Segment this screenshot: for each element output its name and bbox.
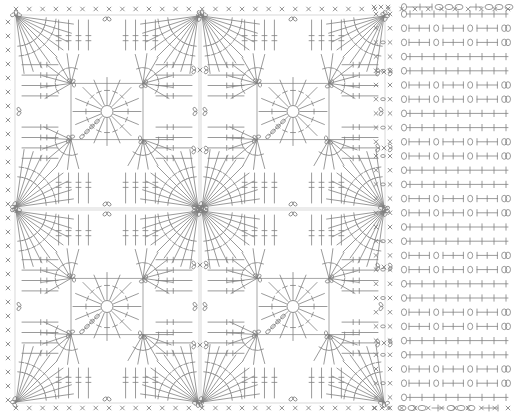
border-row	[374, 124, 508, 131]
dc-post	[296, 275, 306, 300]
dc-crossbar	[143, 68, 148, 69]
dc-crossbar	[46, 18, 47, 23]
border-top-chain	[372, 4, 513, 11]
chain-loop-symbol	[378, 302, 383, 312]
chain-loop-symbol	[16, 302, 21, 312]
dc-post	[143, 252, 158, 278]
single-crochet-symbol	[107, 7, 111, 11]
single-crochet-symbol	[6, 34, 10, 38]
chain-stitch-symbol	[506, 139, 511, 146]
double-crochet-symbol	[321, 54, 329, 83]
dc-crossbar	[138, 155, 143, 156]
chain-stitch-symbol	[506, 96, 511, 103]
double-crochet-symbol	[253, 140, 258, 170]
chain-stitch-symbol	[468, 266, 473, 273]
outer-corner-fan	[141, 10, 204, 74]
dc-crossbar	[319, 152, 323, 155]
single-crochet-symbol	[67, 7, 71, 11]
dc-crossbar	[223, 173, 227, 176]
dc-crossbar	[173, 47, 177, 50]
double-crochet-symbol	[262, 215, 267, 245]
single-crochet-symbol	[120, 406, 124, 410]
double-crochet-symbol	[22, 257, 58, 262]
round-3-outer-fans	[196, 10, 390, 213]
double-crochet-symbol	[252, 173, 257, 203]
double-crochet-symbol	[156, 156, 192, 161]
chain-stitch-symbol	[401, 252, 406, 259]
dc-post	[112, 116, 131, 135]
double-crochet-symbol	[252, 20, 257, 50]
single-crochet-symbol	[374, 254, 378, 258]
double-crochet-symbol	[22, 278, 58, 283]
dc-crossbar	[32, 39, 36, 42]
dc-crossbar	[247, 69, 251, 72]
double-crochet-symbol	[22, 83, 58, 88]
single-crochet-symbol	[81, 406, 85, 410]
double-crochet-symbol	[208, 125, 244, 130]
single-crochet-symbol	[388, 282, 392, 286]
chain-stitch-symbol	[506, 153, 511, 160]
chain-stitch-symbol	[485, 4, 493, 9]
picot-loop-symbol	[324, 78, 337, 91]
border-row	[374, 238, 508, 245]
single-crochet-symbol	[134, 7, 138, 11]
dc-crossbar	[350, 37, 353, 41]
chain-stitch-symbol	[434, 39, 439, 46]
chain-stitch-symbol	[434, 380, 439, 387]
double-crochet-symbol	[208, 340, 244, 345]
double-crochet-symbol	[22, 268, 58, 273]
double-crochet-symbol	[299, 98, 324, 108]
chain-stitch-symbol	[265, 133, 271, 139]
double-crochet-symbol	[156, 278, 192, 283]
single-crochet-symbol	[187, 406, 191, 410]
chain-stitch-symbol	[401, 181, 406, 188]
dc-crossbar	[335, 69, 339, 72]
dc-crossbar	[344, 214, 345, 219]
center-ring	[287, 106, 299, 118]
round-1-radial-dc	[259, 273, 327, 341]
chain-loop-symbol	[204, 260, 209, 269]
single-crochet-symbol	[347, 406, 351, 410]
dc-crossbar	[190, 250, 195, 251]
dc-crossbar	[204, 46, 209, 47]
double-crochet-symbol	[291, 119, 296, 146]
chain-stitch-symbol	[401, 394, 406, 401]
single-crochet-symbol	[200, 406, 204, 410]
chain-stitch-symbol	[401, 238, 406, 245]
center-ring	[101, 106, 113, 118]
dc-crossbar	[329, 263, 334, 264]
outer-corner-fan	[10, 205, 74, 268]
dc-crossbar	[223, 242, 227, 245]
double-crochet-symbol	[321, 249, 329, 278]
double-crochet-symbol	[114, 304, 141, 309]
chain-stitch-symbol	[468, 82, 473, 89]
double-crochet-symbol	[143, 215, 148, 245]
chain-stitch-symbol	[401, 351, 406, 358]
double-crochet-symbol	[123, 368, 128, 398]
chain-loop-symbol	[202, 302, 207, 312]
single-crochet-symbol	[388, 126, 392, 130]
double-crochet-symbol	[56, 252, 71, 278]
dc-post	[299, 98, 324, 108]
dc-post	[298, 311, 317, 330]
single-crochet-symbol	[6, 258, 10, 262]
dc-crossbar	[149, 152, 153, 155]
double-crochet-symbol	[86, 215, 91, 245]
double-crochet-symbol	[342, 320, 378, 325]
dc-crossbar	[354, 395, 355, 400]
dc-crossbar	[19, 55, 24, 56]
dc-post	[329, 249, 333, 279]
single-crochet-symbol	[107, 406, 111, 410]
loop-lobe	[16, 111, 21, 117]
double-crochet-symbol	[143, 249, 148, 279]
chain-stitch-symbol	[79, 133, 85, 139]
dc-crossbar	[364, 376, 368, 379]
loop-lobe	[191, 264, 196, 269]
single-crochet-symbol	[227, 7, 231, 11]
double-crochet-symbol	[299, 114, 324, 124]
single-crochet-symbol	[81, 7, 85, 11]
single-crochet-symbol	[6, 328, 10, 332]
chain-stitch-symbol	[401, 153, 406, 160]
loop-lobe	[202, 111, 207, 117]
dc-crossbar	[376, 167, 381, 168]
